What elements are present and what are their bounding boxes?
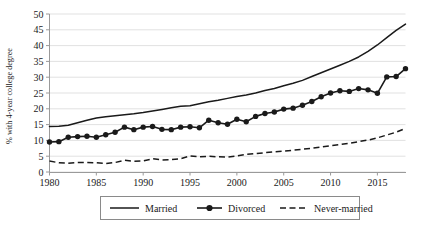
y-tick-label: 5: [39, 151, 44, 162]
data-point-divorced: [178, 124, 183, 129]
data-point-divorced: [159, 127, 164, 132]
x-tick-label: 2015: [367, 177, 387, 188]
x-tick-label: 2005: [274, 177, 294, 188]
series-line-divorced: [50, 69, 406, 142]
x-tick-label: 1990: [133, 177, 153, 188]
x-tick-label: 2010: [321, 177, 341, 188]
legend-label-never-married: Never-married: [314, 203, 373, 214]
y-tick-label: 25: [34, 88, 44, 99]
gridlines: [50, 14, 406, 172]
legend-label-divorced: Divorced: [228, 203, 265, 214]
x-tick-label: 1980: [40, 177, 60, 188]
y-tick-label: 20: [34, 103, 44, 114]
data-point-divorced: [206, 117, 211, 122]
y-axis-tick-labels: 05101520253035404550: [34, 9, 44, 178]
data-point-divorced: [94, 135, 99, 140]
legend-label-married: Married: [145, 203, 177, 214]
x-axis-tick-labels: 19801985199019952000200520102015: [40, 177, 388, 188]
data-point-divorced: [300, 103, 305, 108]
data-point-divorced: [244, 119, 249, 124]
data-point-divorced: [253, 114, 258, 119]
y-tick-label: 15: [34, 119, 44, 130]
data-point-divorced: [187, 124, 192, 129]
y-tick-label: 40: [34, 40, 44, 51]
data-point-divorced: [318, 94, 323, 99]
data-point-divorced: [356, 86, 361, 91]
data-point-divorced: [215, 120, 220, 125]
y-tick-label: 10: [34, 135, 44, 146]
x-tick-label: 2000: [227, 177, 247, 188]
y-tick-label: 45: [34, 24, 44, 35]
data-point-divorced: [66, 135, 71, 140]
chart-legend: Married Divorced Never-married: [101, 197, 373, 220]
series-line-married: [50, 24, 406, 126]
data-point-divorced: [290, 105, 295, 110]
data-point-divorced: [393, 74, 398, 79]
y-tick-label: 50: [34, 9, 44, 20]
data-point-divorced: [375, 91, 380, 96]
data-point-divorced: [347, 89, 352, 94]
legend-marker-divorced: [206, 205, 212, 211]
data-point-divorced: [84, 134, 89, 139]
series-markers-divorced: [47, 66, 408, 145]
y-axis-title: % with 4-year college degree: [5, 48, 14, 144]
data-point-divorced: [234, 117, 239, 122]
data-point-divorced: [140, 124, 145, 129]
data-point-divorced: [281, 106, 286, 111]
data-point-divorced: [131, 127, 136, 132]
data-point-divorced: [328, 90, 333, 95]
data-point-divorced: [403, 66, 408, 71]
chart-figure: 05101520253035404550 1980198519901995200…: [0, 0, 424, 226]
data-point-divorced: [169, 127, 174, 132]
y-tick-label: 35: [34, 56, 44, 67]
data-point-divorced: [112, 129, 117, 134]
data-point-divorced: [47, 139, 52, 144]
x-tick-label: 1995: [180, 177, 200, 188]
y-tick-label: 30: [34, 72, 44, 83]
data-point-divorced: [122, 124, 127, 129]
data-point-divorced: [365, 87, 370, 92]
data-point-divorced: [56, 139, 61, 144]
data-point-divorced: [309, 99, 314, 104]
series-line-never-married: [50, 128, 406, 163]
data-point-divorced: [337, 88, 342, 93]
data-point-divorced: [225, 122, 230, 127]
data-point-divorced: [150, 124, 155, 129]
line-chart: 05101520253035404550 1980198519901995200…: [0, 0, 424, 226]
data-point-divorced: [384, 74, 389, 79]
x-tick-label: 1985: [86, 177, 106, 188]
y-tick-label: 0: [39, 167, 44, 178]
data-point-divorced: [75, 134, 80, 139]
data-point-divorced: [262, 111, 267, 116]
data-point-divorced: [272, 109, 277, 114]
data-point-divorced: [197, 125, 202, 130]
data-point-divorced: [103, 132, 108, 137]
